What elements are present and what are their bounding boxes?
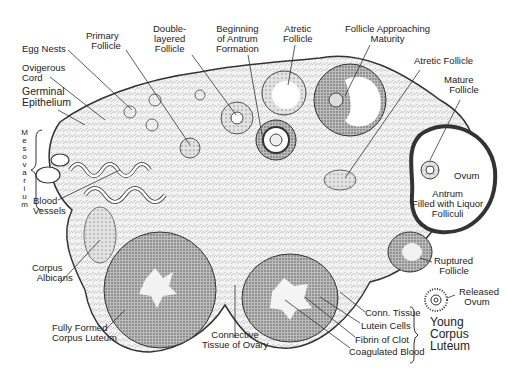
label-ruptured-follicle: Ruptured Follicle — [434, 256, 473, 276]
label-mature-follicle: Mature Follicle — [444, 75, 479, 95]
atretic-follicle-right — [324, 170, 356, 190]
label-follicle-approaching-maturity: Follicle Approaching Maturity — [345, 24, 430, 44]
beginning-antrum-follicle — [256, 120, 296, 160]
label-atretic-follicle-top: Atretic Follicle — [283, 24, 313, 44]
label-primary-follicle: Primary Follicle — [86, 31, 121, 51]
label-ovigerous-cord: Ovigerous Cord — [22, 63, 65, 83]
label-germinal-epithelium: Germinal Epithelium — [22, 86, 71, 108]
label-corpus-albicans: Corpus Albicans — [32, 263, 73, 283]
primary-follicle — [180, 138, 200, 158]
label-released-ovum: Released Ovum — [459, 287, 499, 307]
label-beginning-antrum: Beginning of Antrum Formation — [216, 24, 259, 54]
fully-formed-corpus-luteum — [104, 232, 216, 348]
label-mesovarium: Mesovarium — [20, 128, 29, 208]
label-lutein-cells: Lutein Cells — [361, 321, 411, 331]
label-connective-tissue: Connective Tissue of Ovary — [202, 330, 268, 350]
atretic-follicle-top — [262, 71, 306, 115]
corpus-albicans — [84, 207, 116, 263]
label-coagulated-blood: Coagulated Blood — [349, 347, 425, 357]
label-ovum: Ovum — [454, 171, 479, 181]
label-blood-vessels: Blood Vessels — [33, 196, 66, 216]
follicle-approaching-maturity — [314, 64, 386, 136]
label-egg-nests: Egg Nests — [22, 44, 66, 54]
label-double-layered-follicle: Double- layered Follicle — [153, 24, 186, 54]
label-atretic-follicle-right: Atretic Follicle — [414, 56, 473, 66]
double-layered-follicle — [221, 102, 253, 134]
label-fibrin-of-clot: Fibrin of Clot — [355, 335, 409, 345]
label-conn-tissue: Conn. Tissue — [365, 308, 420, 318]
ovary-diagram: Egg Nests Primary Follicle Double- layer… — [0, 0, 507, 377]
label-antrum: Antrum Filled with Liquor Folliculi — [412, 189, 483, 219]
released-ovum — [425, 289, 447, 311]
label-fully-formed-corpus-luteum: Fully Formed Corpus Luteum — [52, 323, 117, 343]
ruptured-follicle — [388, 232, 432, 272]
label-young-corpus-luteum: Young Corpus Luteum — [430, 316, 470, 352]
